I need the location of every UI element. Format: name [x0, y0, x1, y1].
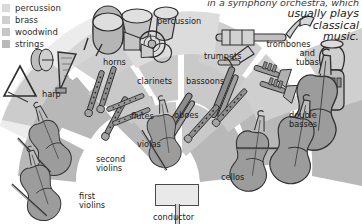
- label-second-violins-line-2: violins: [96, 164, 125, 173]
- label-conductor: conductor: [153, 213, 194, 222]
- label-trombones-and-tubas: trombones and tubas: [258, 40, 319, 68]
- podium-stand: [155, 184, 199, 206]
- label-horns: horns: [103, 58, 126, 67]
- legend-swatch-woodwind: [2, 28, 10, 36]
- legend-item-strings[interactable]: strings: [2, 38, 61, 50]
- label-clarinets: clarinets: [137, 77, 172, 86]
- orchestra-diagram: percussion brass woodwind strings in a s…: [0, 0, 362, 224]
- caption-line-1: usually plays: [207, 8, 359, 20]
- caption-line-3: music.: [207, 31, 359, 43]
- legend-swatch-strings: [2, 40, 10, 48]
- legend-label-strings: strings: [15, 38, 44, 50]
- label-bassoons: bassoons: [186, 77, 224, 86]
- legend-swatch-brass: [2, 16, 10, 24]
- label-trumpets: trumpets: [204, 52, 241, 61]
- legend-label-percussion: percussion: [15, 2, 61, 14]
- instrument-cymbals: [31, 49, 54, 71]
- legend-label-brass: brass: [15, 14, 38, 26]
- legend-item-woodwind[interactable]: woodwind: [2, 26, 61, 38]
- legend-label-woodwind: woodwind: [15, 26, 58, 38]
- caption-block: in a symphony orchestra, which usually p…: [207, 0, 359, 43]
- legend: percussion brass woodwind strings: [2, 2, 61, 50]
- label-flutes: flutes: [131, 112, 154, 121]
- legend-item-brass[interactable]: brass: [2, 14, 61, 26]
- label-first-violins-line-2: violins: [79, 201, 105, 210]
- legend-item-percussion[interactable]: percussion: [2, 2, 61, 14]
- label-percussion: percussion: [157, 17, 201, 26]
- label-first-violins: first violins: [79, 192, 105, 210]
- label-second-violins: second violins: [96, 155, 125, 173]
- label-harp: harp: [42, 90, 61, 99]
- label-oboes: oboes: [174, 111, 199, 120]
- label-cellos: cellos: [221, 173, 244, 182]
- legend-swatch-percussion: [2, 4, 10, 12]
- label-trombones-line-3: tubas: [258, 58, 319, 67]
- label-violas: violas: [137, 140, 161, 149]
- label-double-basses-line-2: basses: [289, 120, 317, 129]
- label-double-basses: double basses: [289, 111, 317, 129]
